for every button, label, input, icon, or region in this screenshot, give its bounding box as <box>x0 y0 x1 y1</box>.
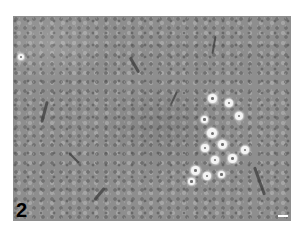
vacuolated-cell <box>188 178 195 185</box>
vacuolated-cell <box>211 156 219 164</box>
vacuolated-cell <box>241 146 249 154</box>
vacuolated-cell <box>201 144 209 152</box>
panel-label: 2 <box>16 200 27 220</box>
vacuolated-cell <box>18 54 24 60</box>
vacuolated-cell <box>191 166 200 175</box>
vacuolated-cell <box>203 172 211 180</box>
vacuolated-cell <box>218 171 225 178</box>
vacuolated-cell <box>225 99 233 107</box>
vacuolated-cell <box>228 154 237 163</box>
vacuolated-cell <box>218 140 227 149</box>
vacuolated-cell <box>235 112 243 120</box>
tissue-shading <box>13 16 291 221</box>
micrograph-image <box>13 16 291 221</box>
vacuolated-cell <box>201 116 208 123</box>
vacuolated-cell <box>207 128 217 138</box>
scale-bar <box>278 215 288 217</box>
vacuolated-cell <box>208 94 217 103</box>
